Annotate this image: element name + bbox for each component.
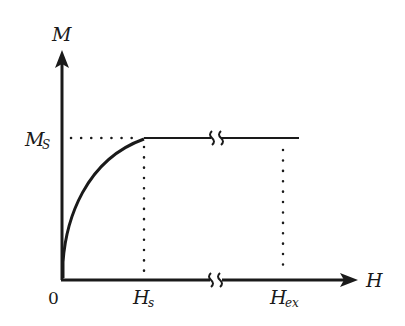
magnetization-curve: [63, 139, 144, 278]
ms-label: M S: [24, 128, 50, 152]
svg-text:ex: ex: [285, 296, 299, 310]
svg-text:S: S: [42, 138, 50, 152]
magnetization-diagram: M H 0 M S H s H ex: [0, 0, 405, 326]
y-axis-label: M: [51, 23, 72, 45]
hex-label: H ex: [269, 286, 299, 310]
origin-label: 0: [48, 288, 59, 308]
svg-text:s: s: [148, 296, 154, 310]
x-axis-label: H: [365, 269, 383, 291]
hs-label: H s: [132, 286, 154, 310]
curve-break-icon: [210, 131, 223, 145]
x-axis-break-icon: [209, 273, 222, 287]
